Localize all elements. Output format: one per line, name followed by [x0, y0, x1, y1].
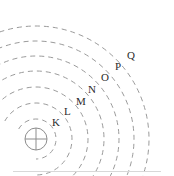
atomic-shell-diagram: K L M N O P Q [0, 0, 174, 176]
shell-label-k: K [52, 117, 60, 128]
shell-label-m: M [76, 96, 86, 107]
shell-label-p: P [115, 61, 121, 72]
shell-label-l: L [64, 106, 71, 117]
bottom-rule [13, 171, 161, 172]
shell-label-n: N [88, 84, 96, 95]
shell-arcs-canvas [0, 0, 174, 176]
shell-label-q: Q [127, 50, 135, 61]
shell-label-o: O [101, 72, 109, 83]
nucleus-group [25, 128, 47, 150]
